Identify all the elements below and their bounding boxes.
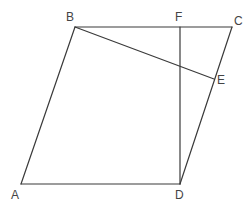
label-f: F (175, 10, 182, 24)
label-b: B (66, 10, 74, 24)
segment-be (75, 27, 214, 79)
label-c: C (234, 14, 243, 28)
label-e: E (217, 73, 225, 87)
labels-group: A B C D E F (11, 10, 243, 202)
segments-group (21, 27, 232, 184)
segment-ab (21, 27, 75, 184)
label-d: D (175, 188, 184, 202)
segment-cd (180, 27, 232, 184)
label-a: A (11, 188, 19, 202)
geometry-diagram: A B C D E F (0, 0, 251, 207)
